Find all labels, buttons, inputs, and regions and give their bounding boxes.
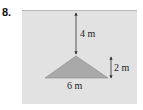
depth-label: 4 m xyxy=(80,28,96,39)
height-label: 2 m xyxy=(114,62,130,73)
hydrostatic-plate-diagram: 4 m 2 m 6 m xyxy=(0,0,143,110)
base-label: 6 m xyxy=(67,80,83,91)
problem-figure: 8. 4 m 2 m 6 m xyxy=(0,0,143,110)
